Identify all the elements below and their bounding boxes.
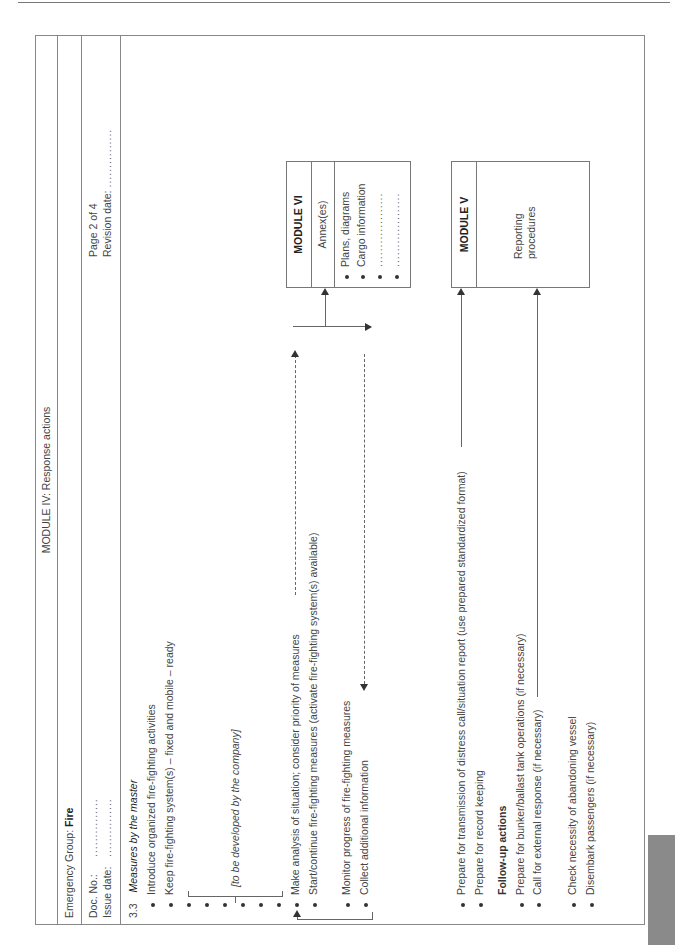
bullet [364, 903, 368, 907]
brace-tip [235, 897, 236, 903]
divider [81, 35, 82, 925]
divider [311, 162, 312, 287]
follow-up-item: Check necessity of abandoning vessel [566, 716, 578, 895]
divider [476, 162, 477, 287]
bullet-empty [241, 903, 245, 907]
bullet-empty [259, 903, 263, 907]
divider [57, 35, 58, 925]
page-number: Page 2 of 4 [87, 203, 99, 257]
bullet [572, 903, 576, 907]
module-vi-box: MODULE VI Annex(es) Plans, diagrams Carg… [286, 161, 411, 288]
list-item: Introduce organized fire-fighting activi… [145, 704, 157, 895]
annex-item: Cargo information [355, 184, 367, 267]
issue-date-value: ............... [101, 798, 113, 857]
revision-date-label: Revision date: [101, 190, 113, 257]
list-item: Keep fire-fighting system(s) – fixed and… [163, 641, 175, 895]
dashed-connector [364, 354, 365, 684]
section-number: 3.3 [127, 903, 139, 918]
arrow-down-icon [365, 323, 372, 331]
bullet [313, 903, 317, 907]
brace-top [188, 891, 189, 897]
follow-up-item: Call for external response (if necessary… [531, 709, 543, 895]
module-v-box: MODULE V Reporting procedures [451, 161, 590, 288]
arrow-right-icon [291, 350, 299, 357]
module-vi-title: MODULE VI [292, 162, 304, 287]
emergency-group-label: Emergency Group: [63, 827, 75, 918]
list-item: Start/continue fire-fighting measures (a… [307, 533, 319, 895]
bullet [151, 903, 155, 907]
divider [334, 162, 335, 287]
section-heading: 3.3 Measures by the master [127, 780, 139, 918]
module-v-body-line2: procedures [525, 206, 537, 259]
bullet [346, 903, 350, 907]
revision-date-value: ............... [101, 129, 113, 188]
module-v-body-line1: Reporting [512, 213, 524, 259]
arrow-right-icon [321, 288, 329, 295]
connector-line [537, 295, 538, 697]
loop-line [297, 919, 373, 920]
bullet [395, 275, 399, 279]
emergency-group-value: Fire [63, 808, 75, 827]
arrow-right-icon [457, 288, 465, 295]
annex-item: ................... [389, 193, 401, 267]
bullet [590, 903, 594, 907]
loop-line [372, 912, 373, 920]
bullet [537, 903, 541, 907]
arrow-right-icon [533, 288, 541, 295]
follow-up-item: Disembark passengers (if necessary) [584, 722, 596, 895]
bullet-empty [277, 903, 281, 907]
bullet [361, 275, 365, 279]
revision-date: Revision date: ............... [101, 129, 113, 257]
section-title: Measures by the master [127, 780, 139, 893]
issue-date-label: Issue date: [101, 867, 113, 918]
arrow-right-icon [293, 910, 301, 917]
bullet [520, 903, 524, 907]
connector-line [293, 326, 371, 327]
connector-line [461, 295, 462, 447]
connector-line [293, 326, 294, 327]
bullet [479, 903, 483, 907]
list-item: Prepare for record keeping [473, 770, 485, 895]
doc-no-label: Doc. No.: [87, 874, 99, 918]
emergency-group: Emergency Group: Fire [63, 808, 75, 918]
divider [120, 35, 121, 925]
top-rule [18, 2, 670, 3]
annex-item: Plans, diagrams [339, 192, 351, 267]
bullet-empty [205, 903, 209, 907]
bullet-empty [187, 903, 191, 907]
annex-item: ................... [372, 193, 384, 267]
list-item: Make analysis of situation; consider pri… [289, 634, 301, 895]
brace-bottom [282, 891, 283, 897]
bullet [461, 903, 465, 907]
connector-line [325, 295, 326, 327]
list-item: Prepare for transmission of distress cal… [455, 471, 467, 895]
module-vi-subtitle: Annex(es) [316, 162, 328, 287]
module-title: MODULE IV: Response actions [40, 35, 52, 925]
module-v-title: MODULE V [458, 162, 470, 287]
list-item: Monitor progress of fire-fighting measur… [340, 701, 352, 895]
rotated-document-page: MODULE IV: Response actions Emergency Gr… [35, 35, 645, 925]
bullet [295, 903, 299, 907]
follow-up-item: Prepare for bunker/ballast tank operatio… [514, 634, 526, 895]
follow-up-heading: Follow-up actions [496, 806, 508, 895]
bullet [345, 275, 349, 279]
dashed-connector [295, 355, 296, 595]
page-edge-tab [648, 835, 675, 945]
bullet-empty [223, 903, 227, 907]
company-note: [to be developed by the company] [229, 729, 241, 887]
bullet [378, 275, 382, 279]
arrow-left-icon [360, 684, 368, 691]
doc-no-value: ............... [87, 798, 99, 857]
bullet [169, 903, 173, 907]
list-item: Collect additional information [358, 760, 370, 895]
